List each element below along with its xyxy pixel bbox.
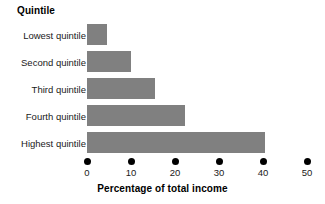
x-tick-label: 40	[249, 167, 277, 178]
tick-dot-icon	[172, 158, 179, 165]
value-axis-title: Percentage of total income	[0, 183, 325, 194]
x-tick-label: 30	[205, 167, 233, 178]
tick-dot-icon	[84, 158, 91, 165]
tick-dot-icon	[260, 158, 267, 165]
tick-dot-icon	[128, 158, 135, 165]
x-tick-label: 20	[161, 167, 189, 178]
value-axis: 0 10 20 30 40 50	[0, 0, 325, 204]
tick-dot-icon	[216, 158, 223, 165]
x-tick-label: 50	[293, 167, 321, 178]
x-tick-label: 10	[117, 167, 145, 178]
x-tick-label: 0	[73, 167, 101, 178]
tick-dot-icon	[304, 158, 311, 165]
bar-chart: Quintile Lowest quintile Second quintile…	[0, 0, 325, 204]
